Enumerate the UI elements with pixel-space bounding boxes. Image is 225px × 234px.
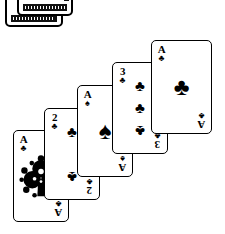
clubs-pip-icon: ♣	[135, 123, 145, 138]
clubs-pip-icon: ♣	[174, 75, 190, 99]
deck-box-back-label	[11, 15, 57, 22]
deck-box-side-stripe	[64, 0, 69, 2]
playing-card[interactable]: A♣A♣♣	[151, 40, 212, 134]
deck-box-front-label	[23, 4, 67, 11]
clubs-pip-icon: ♣	[67, 124, 77, 139]
clubs-pip-icon: ♣	[135, 101, 145, 116]
clubs-pip-icon: ♣	[135, 78, 145, 93]
spades-pip-icon: ♠	[99, 119, 112, 143]
deck-box-front: ♣ ♣	[17, 0, 73, 16]
clubs-pip-icon: ♣	[67, 169, 77, 184]
illustration-canvas: ♣ ♣ A♣A♣2♣2♣♣♣A♠A♠♠3♣3♣♣♣♣A♣A♣♣	[0, 0, 225, 234]
card-pip-area: ♣	[159, 57, 204, 117]
